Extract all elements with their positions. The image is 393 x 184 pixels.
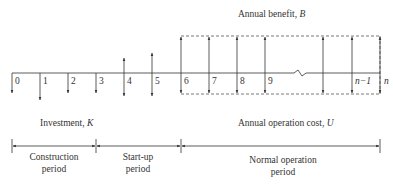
tick-0: 0: [15, 76, 20, 86]
tick-labels: 0 1 2 3 4 5 6 7 8 9 n−1 n: [15, 76, 389, 86]
period-startup-line2: period: [126, 164, 151, 174]
tick-8: 8: [240, 76, 245, 86]
benefit-envelope: [181, 36, 380, 94]
annual-cost-label: Annual operation cost, U: [238, 118, 335, 128]
tick-1: 1: [43, 76, 48, 86]
tick-n: n: [384, 76, 389, 86]
period-normal-line2: period: [271, 167, 296, 177]
period-construction-line1: Construction: [29, 152, 78, 162]
investment-label: Investment, K: [40, 118, 94, 128]
startup-arrows: [124, 53, 152, 96]
annual-benefit-label: Annual benefit, B: [238, 9, 305, 19]
period-labels: Construction period Start-up period Norm…: [29, 152, 316, 177]
period-normal-line1: Normal operation: [249, 155, 317, 165]
tick-5: 5: [155, 76, 160, 86]
tick-3: 3: [99, 76, 104, 86]
time-axis: [12, 70, 380, 76]
tick-4: 4: [127, 76, 132, 86]
tick-n-minus-1: n−1: [355, 76, 371, 86]
period-brackets: [12, 139, 380, 153]
tick-6: 6: [184, 76, 189, 86]
operation-arrows: [181, 37, 380, 93]
cash-flow-diagram: Annual benefit, B: [0, 0, 393, 184]
tick-9: 9: [268, 76, 273, 86]
tick-7: 7: [212, 76, 217, 86]
period-construction-line2: period: [42, 164, 67, 174]
tick-2: 2: [71, 76, 76, 86]
period-startup-line1: Start-up: [123, 152, 154, 162]
year-dividers: [12, 73, 96, 100]
